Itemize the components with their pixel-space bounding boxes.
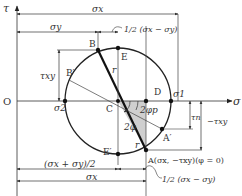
neg-tau-xy-label: −τxy <box>207 117 228 126</box>
diameter-BA <box>98 50 146 150</box>
half-diff-top-label: 1/2 (σx − σy) <box>124 25 177 34</box>
point-C <box>116 99 120 103</box>
label-E: E <box>121 52 128 62</box>
origin-label: O <box>3 96 11 107</box>
point-D <box>144 99 148 103</box>
tau-axis-label: τ <box>3 2 10 15</box>
radius-label-top: r <box>112 65 117 75</box>
radius-label-bottom: r <box>135 140 140 150</box>
point-E-prime <box>116 152 120 156</box>
sigma-axis-label: σ <box>233 95 241 108</box>
label-A: A(σx, −τxy)(φ = 0) <box>147 156 224 165</box>
label-E-prime: E′ <box>103 147 112 157</box>
tau-n-label: τn <box>191 113 201 122</box>
half-diff-bottom-label: 1/2 (σx − σy) <box>162 175 215 184</box>
point-sigma1 <box>169 99 173 103</box>
leader-half-diff-top <box>112 27 122 32</box>
label-D: D <box>154 87 161 97</box>
point-A-prime <box>160 127 164 131</box>
point-A <box>144 148 148 152</box>
label-C: C <box>106 104 113 114</box>
point-E <box>116 46 120 50</box>
sigma1-label: σ1 <box>173 89 185 99</box>
label-B: B <box>89 39 96 49</box>
label-A-prime: A′ <box>162 133 172 143</box>
two-phi-p-label: 2φp <box>139 105 158 115</box>
sigma-x-label: σx <box>92 4 103 14</box>
sigma2-label: σ2 <box>54 103 66 113</box>
point-B <box>96 48 100 52</box>
sigma-y-label: σy <box>50 22 62 32</box>
mean-label: (σx + σy)/2 <box>44 159 96 169</box>
leader-half-diff-bottom <box>145 166 162 178</box>
mohr-circle-diagram: τ σ O σx σy 1/2 (σx − σy) B E B′ τxy r D… <box>0 0 242 196</box>
two-phi-label: 2φ <box>123 122 137 132</box>
label-B-prime: B′ <box>66 68 75 78</box>
tau-xy-label: τxy <box>40 71 56 81</box>
sigma-x-bottom-label: σx <box>86 172 97 182</box>
diagram-canvas: τ σ O σx σy 1/2 (σx − σy) B E B′ τxy r D… <box>0 0 242 196</box>
